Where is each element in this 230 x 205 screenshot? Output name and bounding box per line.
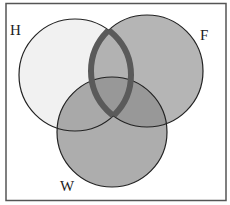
set-f-label: F xyxy=(200,27,208,43)
set-h-label: H xyxy=(10,22,21,38)
set-w-label: W xyxy=(60,178,75,194)
venn-svg: H F W xyxy=(0,0,230,205)
venn-diagram: H F W xyxy=(0,0,230,205)
